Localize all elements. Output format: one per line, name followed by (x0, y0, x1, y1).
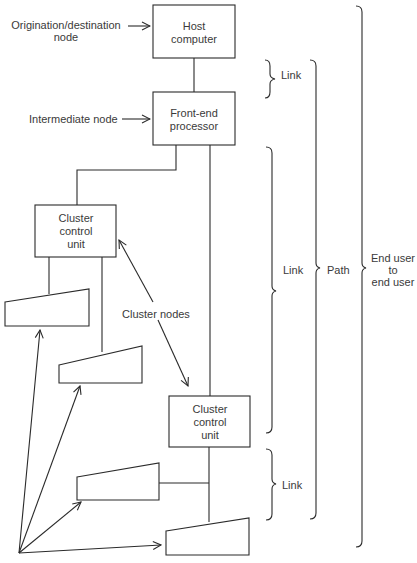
svg-text:end user: end user (372, 276, 415, 288)
end-user-arrows (19, 330, 161, 553)
arrow-icon (158, 320, 188, 386)
front-end-processor-node: Front-end processor (153, 92, 235, 145)
intermediate-label: Intermediate node (29, 113, 118, 125)
cluster-nodes-label: Cluster nodes (122, 308, 190, 320)
fep-ccu1-link (77, 145, 176, 205)
svg-text:Host: Host (183, 20, 206, 32)
link-label-2: Link (283, 264, 304, 276)
svg-text:End user: End user (371, 252, 415, 264)
svg-text:Front-end: Front-end (170, 107, 218, 119)
svg-text:unit: unit (67, 238, 85, 250)
svg-text:Cluster: Cluster (59, 212, 94, 224)
end-user-label: End user to end user (371, 252, 415, 288)
cluster-control-unit-1: Cluster control unit (35, 205, 116, 257)
end-user-brace (356, 6, 366, 547)
svg-text:control: control (193, 416, 226, 428)
link-brace-2 (266, 147, 276, 433)
link-label-3: Link (282, 479, 303, 491)
svg-text:Origination/destination: Origination/destination (11, 19, 120, 31)
terminal-node (5, 289, 89, 326)
terminal-node (77, 463, 159, 500)
link-label-1: Link (281, 69, 302, 81)
svg-text:Intermediate node: Intermediate node (29, 113, 118, 125)
svg-text:to: to (388, 264, 397, 276)
cluster-control-unit-2: Cluster control unit (169, 396, 250, 447)
network-diagram: Host computer Front-end processor Origin… (0, 0, 417, 563)
svg-text:control: control (59, 225, 92, 237)
terminal-node (59, 346, 142, 383)
svg-text:node: node (54, 31, 78, 43)
path-label: Path (327, 264, 350, 276)
link-brace-3 (266, 449, 276, 520)
link-brace-1 (265, 60, 275, 98)
svg-text:computer: computer (171, 33, 217, 45)
arrow-icon (119, 240, 153, 302)
host-computer-node: Host computer (153, 5, 235, 58)
svg-text:processor: processor (170, 120, 219, 132)
svg-text:Cluster: Cluster (193, 403, 228, 415)
svg-text:unit: unit (201, 429, 219, 441)
origination-label: Origination/destination node (11, 19, 120, 43)
terminal-node (166, 518, 249, 555)
path-brace (310, 60, 320, 519)
